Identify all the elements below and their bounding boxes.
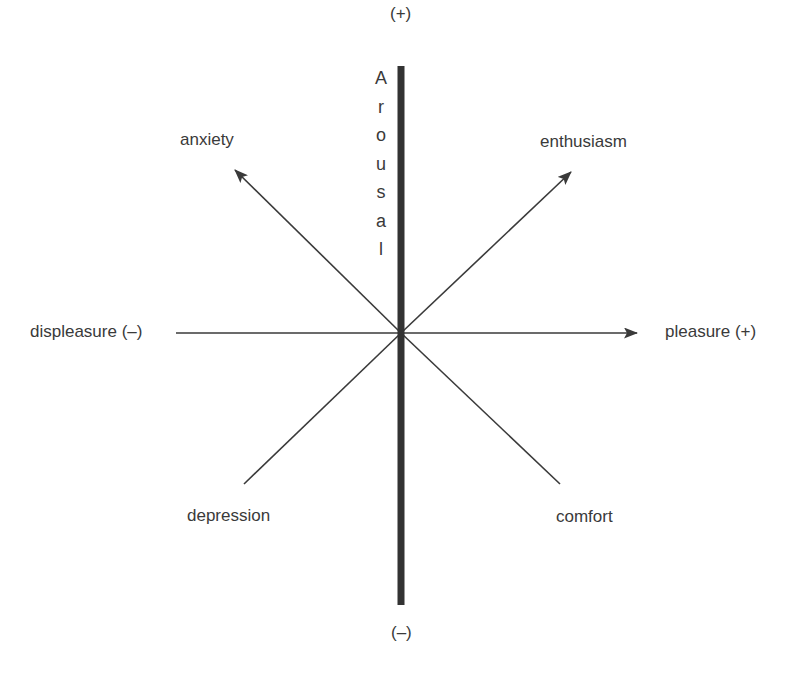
enthusiasm-label: enthusiasm	[540, 132, 627, 152]
arousal-letter: r	[378, 93, 384, 122]
pleasure-label: pleasure (+)	[665, 322, 756, 342]
arousal-letter: A	[375, 64, 387, 93]
enthusiasm-arrow	[401, 172, 571, 333]
comfort-line	[401, 333, 560, 484]
arousal-letter: u	[376, 150, 386, 179]
arousal-letter: l	[379, 235, 383, 264]
comfort-label: comfort	[556, 507, 613, 527]
depression-label: depression	[187, 506, 270, 526]
arousal-letter: s	[377, 178, 386, 207]
affect-diagram: (+) A r o u s a l (–) displeasure (–) pl…	[0, 0, 800, 674]
arousal-letter: o	[376, 121, 386, 150]
arousal-letter: a	[376, 207, 386, 236]
displeasure-label: displeasure (–)	[30, 322, 142, 342]
anxiety-label: anxiety	[180, 130, 234, 150]
depression-line	[244, 333, 401, 484]
arousal-positive-label: (+)	[390, 4, 411, 24]
arousal-axis-label: A r o u s a l	[372, 64, 390, 264]
arousal-negative-label: (–)	[391, 623, 412, 643]
